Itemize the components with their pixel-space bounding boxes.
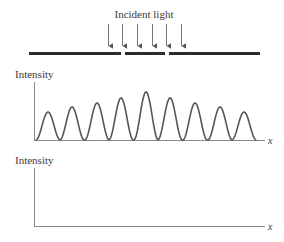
graph1-xlabel: x: [267, 135, 273, 146]
graph2-ylabel: Intensity: [15, 154, 54, 166]
slit-barrier: [29, 52, 260, 55]
interference-intensity-curve: [36, 92, 256, 140]
barrier-segment: [169, 52, 260, 55]
diagram-canvas: Incident light Intensity x Intensity x: [0, 0, 284, 242]
incident-light-label: Incident light: [115, 8, 174, 20]
barrier-segment: [125, 52, 165, 55]
incident-light-arrows: [109, 24, 182, 46]
graph2-xlabel: x: [267, 221, 273, 232]
graph1-ylabel: Intensity: [15, 68, 54, 80]
barrier-segment: [29, 52, 121, 55]
